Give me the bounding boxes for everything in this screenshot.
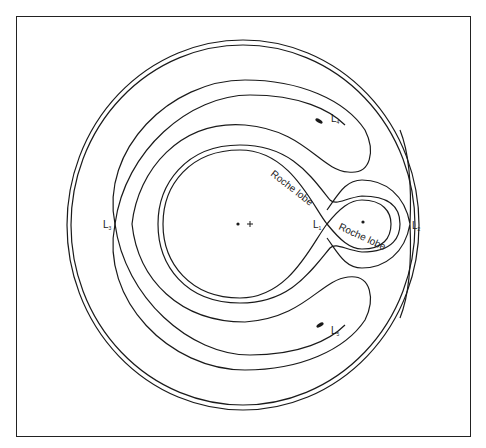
outer-contour-2 [71,45,415,405]
l2-l3-contour [115,95,345,355]
primary-star-dot [236,222,239,225]
l5-region [316,321,325,328]
center-of-mass-cross [247,221,253,227]
l3-label: L3 [103,219,112,231]
primary-roche-lobe [163,150,327,298]
l5-label: L5 [331,325,340,337]
roche-diagram: L3 L1 L2 L4 L5 Roche lobe Roche lobe [0,0,486,448]
l1-label: L1 [313,219,322,231]
l4-region [315,117,324,124]
l4-label: L4 [331,113,340,125]
secondary-star-dot [361,220,364,223]
